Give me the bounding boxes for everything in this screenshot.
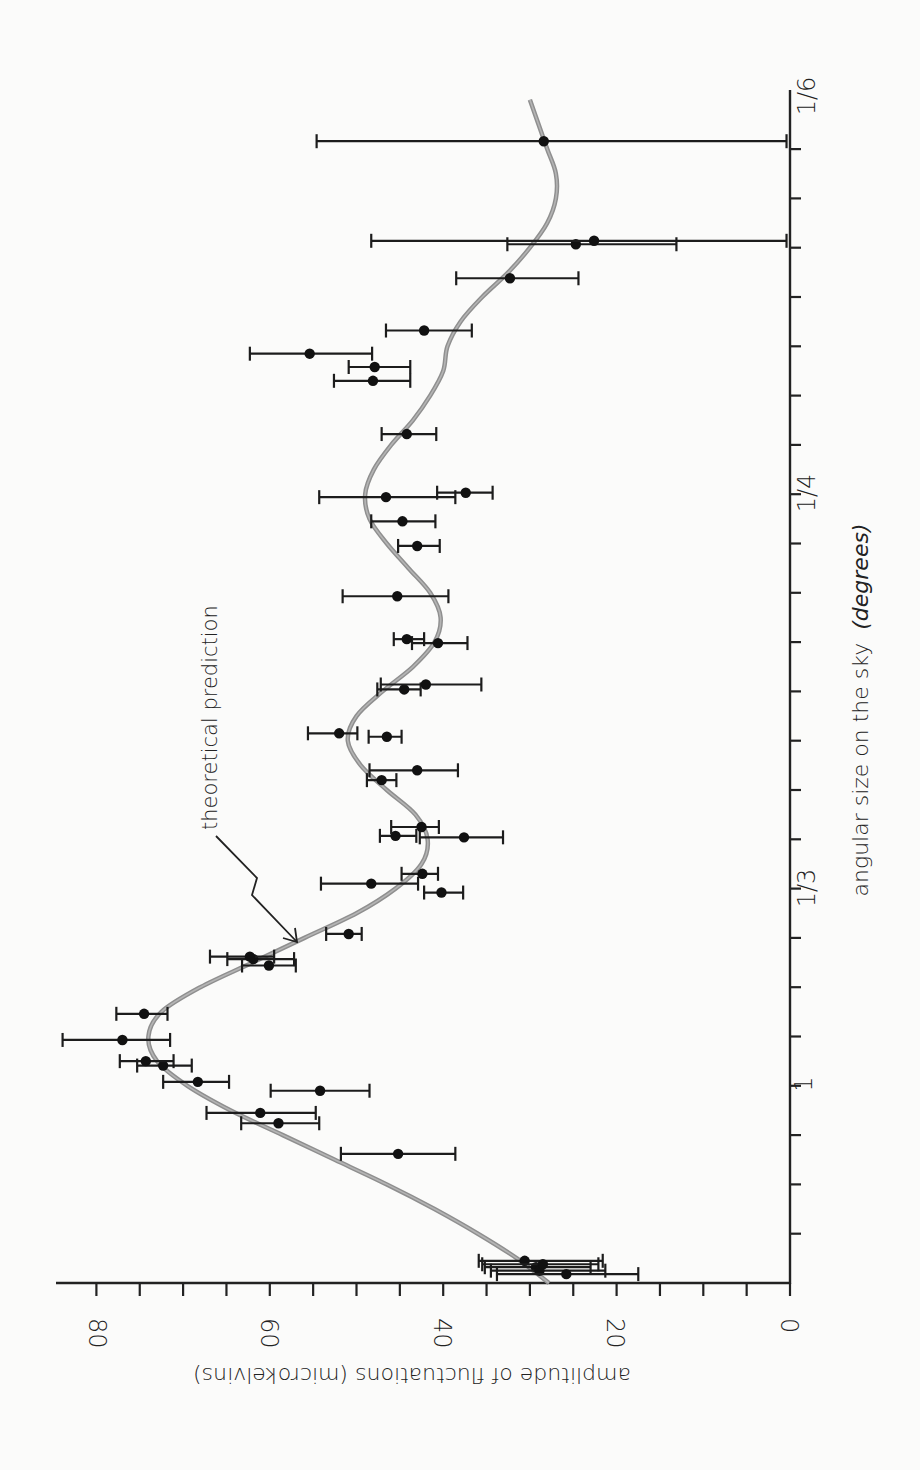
angular-size-axis-title: angular size on the sky (degrees) [848,523,873,896]
data-point-marker [141,1056,151,1066]
data-point [321,877,418,891]
data-point-marker [561,1269,571,1279]
cmb-power-spectrum-chart: 80 60 40 20 0 amplitude of fluctuations … [0,0,920,1470]
data-point [317,134,787,148]
data-point [271,1084,370,1098]
data-point [456,271,578,285]
amplitude-tick-label-80: 80 [83,1318,111,1349]
annotation-label: theoretical prediction [198,605,222,830]
data-point [334,374,410,388]
data-point-marker [368,376,378,386]
data-point-marker [461,488,471,498]
data-point-marker [315,1086,325,1096]
data-point [343,589,449,603]
amplitude-tick-label-40: 40 [428,1318,456,1349]
data-point-marker [382,732,392,742]
data-point-marker [139,1009,149,1019]
data-point [227,952,294,966]
data-point-marker [245,951,255,961]
data-point-marker [376,775,386,785]
angular-tick-label-1-6: 1/6 [793,77,821,116]
data-point-marker [381,492,391,502]
angular-size-axis-ticks [790,149,801,1234]
data-point-marker [397,516,407,526]
data-point [326,927,362,941]
data-point [420,830,503,844]
data-point [319,490,455,504]
data-point [349,360,411,374]
data-point-marker [412,765,422,775]
data-point-marker [433,638,443,648]
angular-size-tick-labels: 1 1/3 1/4 1/6 [790,77,821,1092]
data-point-marker [421,679,431,689]
data-point-marker [255,1108,265,1118]
data-point-marker [505,273,515,283]
data-point [250,347,372,361]
data-point [116,1007,167,1021]
data-point-marker [402,634,412,644]
theoretical-prediction-annotation: theoretical prediction [198,605,297,942]
measurement-points [63,134,787,1281]
data-point [497,1267,638,1281]
angular-tick-label-1: 1 [790,1076,818,1091]
amplitude-axis-title-rotated: amplitude of fluctuations (microkelvins) [193,1363,631,1388]
data-point-marker [589,236,599,246]
data-point [241,1116,319,1130]
data-point-marker [264,960,274,970]
data-point-marker [419,325,429,335]
amplitude-tick-labels: 80 60 40 20 0 [83,1318,803,1349]
annotation-zigzag-arrow [216,836,297,942]
data-point-marker [392,591,402,601]
data-point-marker [539,136,549,146]
data-point-marker [538,1259,548,1269]
data-point-marker [399,684,409,694]
amplitude-axis-ticks [96,1283,790,1296]
data-point-marker [366,878,376,888]
angular-size-axis-units: (degrees) [848,523,873,629]
data-point [63,1033,171,1047]
data-point [380,829,416,843]
axes [56,90,801,1296]
data-point-marker [402,429,412,439]
data-point-marker [117,1035,127,1045]
data-point-marker [393,1149,403,1159]
data-point [369,730,402,744]
amplitude-tick-label-0: 0 [775,1318,803,1333]
data-point-marker [334,728,344,738]
data-point [424,886,463,900]
data-point-marker [412,541,422,551]
data-point [491,1264,605,1278]
data-point-marker [343,929,353,939]
data-point [341,1147,455,1161]
data-point-marker [273,1118,283,1128]
data-point-marker [416,822,426,832]
angular-tick-label-1-4: 1/4 [793,474,821,513]
data-point [371,514,435,528]
data-point-marker [436,887,446,897]
amplitude-tick-label-60: 60 [255,1318,283,1349]
data-point-marker [459,832,469,842]
angular-size-axis-title-text: angular size on the sky [848,643,873,897]
data-point-marker [193,1077,203,1087]
data-point [382,427,437,441]
amplitude-tick-label-20: 20 [601,1318,629,1349]
data-point-marker [304,348,314,358]
angular-tick-label-1-3: 1/3 [793,869,821,908]
data-point-marker [370,362,380,372]
data-point-marker [417,869,427,879]
data-point [398,539,440,553]
